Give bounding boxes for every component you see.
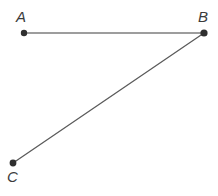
segment-bc <box>13 33 204 163</box>
point-a <box>21 30 27 36</box>
geometry-figure: A B C <box>0 0 218 196</box>
geometry-canvas <box>0 0 218 196</box>
point-label-b: B <box>198 9 208 24</box>
point-c <box>10 160 17 167</box>
point-label-a: A <box>16 9 26 24</box>
point-label-c: C <box>7 169 18 184</box>
point-b <box>200 29 207 36</box>
